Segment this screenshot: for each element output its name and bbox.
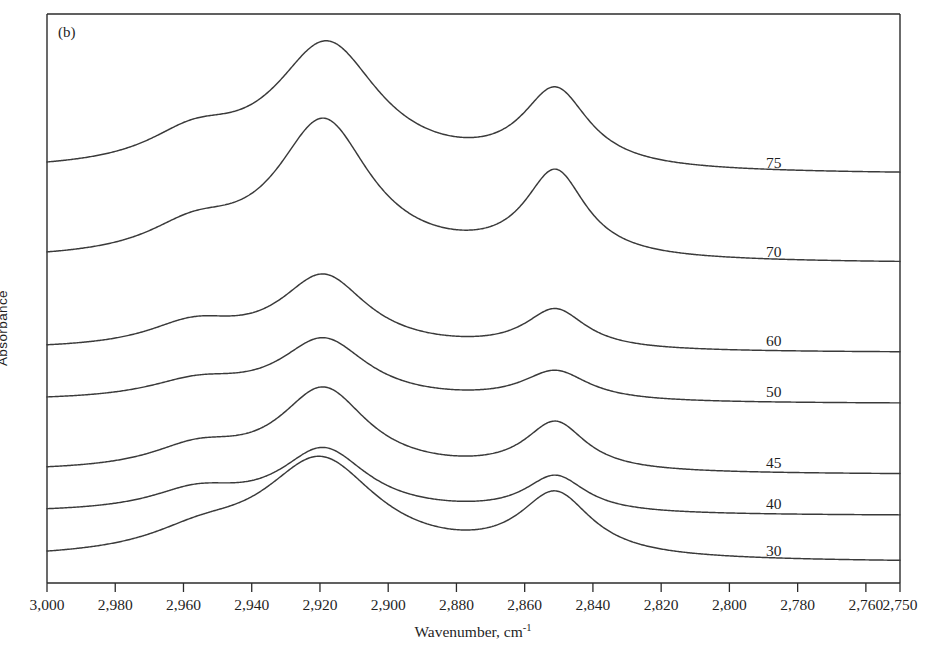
panel-label: (b) — [58, 24, 76, 41]
x-tick-label: 2,820 — [644, 596, 679, 613]
x-axis-title: Wavenumber, cm-1 — [414, 622, 531, 640]
curve-label-75: 75 — [766, 154, 782, 171]
x-tick-label: 2,960 — [166, 596, 201, 613]
x-tick-label: 2,750 — [883, 596, 918, 613]
spectrum-curve-70 — [47, 118, 900, 261]
x-tick-label: 2,900 — [371, 596, 406, 613]
x-tick-label: 2,940 — [234, 596, 269, 613]
curve-label-45: 45 — [766, 454, 782, 471]
spectra-plot: 75706050454030 3,0002,9802,9602,9402,920… — [0, 0, 936, 656]
x-axis-title-superscript: -1 — [523, 622, 532, 633]
x-tick-label: 2,780 — [780, 596, 815, 613]
x-axis-tick-labels: 3,0002,9802,9602,9402,9202,9002,8802,860… — [30, 596, 918, 613]
x-tick-label: 2,980 — [98, 596, 133, 613]
x-axis-title-text: Wavenumber, cm — [414, 623, 522, 640]
curve-labels: 75706050454030 — [766, 154, 782, 559]
x-axis-ticks — [47, 583, 900, 592]
x-tick-label: 2,840 — [575, 596, 610, 613]
curve-label-40: 40 — [766, 495, 782, 512]
x-tick-label: 2,860 — [507, 596, 542, 613]
curve-label-70: 70 — [766, 243, 782, 260]
x-tick-label: 2,760 — [848, 596, 883, 613]
x-tick-label: 3,000 — [30, 596, 65, 613]
curve-label-30: 30 — [766, 542, 782, 559]
spectrum-curve-75 — [47, 41, 900, 172]
figure-container: Absorbance 75706050454030 3,0002,9802,96… — [0, 0, 936, 656]
curve-label-50: 50 — [766, 383, 782, 400]
curve-label-60: 60 — [766, 332, 782, 349]
x-tick-label: 2,920 — [303, 596, 338, 613]
x-tick-label: 2,880 — [439, 596, 474, 613]
x-tick-label: 2,800 — [712, 596, 747, 613]
spectra-curves — [47, 41, 900, 561]
